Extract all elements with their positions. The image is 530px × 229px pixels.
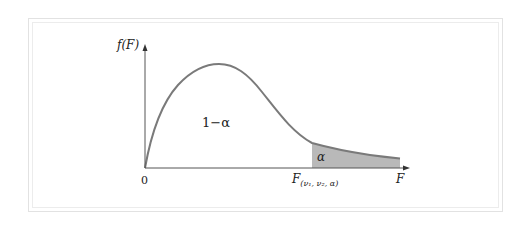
origin-label: 0: [141, 175, 148, 186]
x-axis-label: F: [396, 173, 404, 185]
body-region-label: 1−α: [202, 116, 230, 129]
tail-region-label: α: [317, 151, 325, 163]
y-axis-arrow-icon: [143, 44, 148, 51]
f-distribution-plot: [0, 0, 530, 229]
critical-value-label: F(ν₁, ν₂, α): [292, 173, 338, 188]
critical-value-subscript: (ν₁, ν₂, α): [300, 179, 338, 188]
density-curve: [145, 64, 400, 168]
x-axis-arrow-icon: [403, 166, 410, 171]
y-axis-label: f(F): [117, 39, 139, 51]
